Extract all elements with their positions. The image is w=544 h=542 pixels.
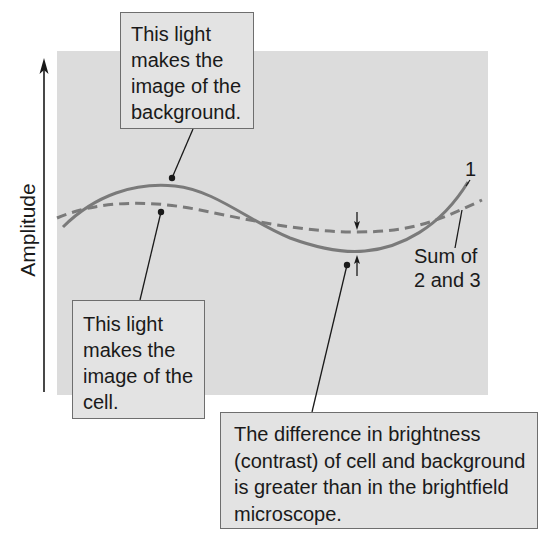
callout-line: cell.: [83, 389, 204, 415]
dot-background: [169, 175, 175, 181]
curve-1-label: 1: [465, 157, 476, 181]
sum-label-line: 2 and 3: [414, 268, 481, 292]
callout-line: image of the: [83, 363, 204, 389]
curve-1-solid: [63, 182, 468, 251]
y-axis-label: Amplitude: [17, 183, 38, 276]
dot-difference: [344, 262, 350, 268]
arrow-up-small-icon: [354, 255, 360, 276]
callout-line: This light: [131, 21, 253, 47]
callout-line: The difference in brightness: [234, 421, 537, 448]
callout-line: microscope.: [234, 501, 537, 528]
sum-curve-label: Sum of 2 and 3: [414, 244, 481, 292]
callout-line: makes the: [131, 47, 253, 73]
sum-label-line: Sum of: [414, 244, 481, 268]
callout-cell-light: This light makes the image of the cell.: [72, 300, 205, 419]
leader-label-sum: [455, 210, 462, 248]
arrow-down-icon: [354, 212, 360, 230]
callout-line: background.: [131, 99, 253, 125]
leader-background: [172, 129, 193, 178]
callout-line: is greater than in the brightfield: [234, 474, 537, 501]
callout-line: makes the: [83, 337, 204, 363]
dot-cell: [158, 209, 164, 215]
callout-line: This light: [83, 311, 204, 337]
callout-background-light: This light makes the image of the backgr…: [120, 12, 254, 129]
callout-line: (contrast) of cell and background: [234, 448, 537, 475]
leader-cell: [140, 212, 161, 300]
callout-contrast-difference: The difference in brightness (contrast) …: [220, 412, 538, 529]
callout-line: image of the: [131, 73, 253, 99]
leader-difference: [312, 265, 347, 412]
amplitude-axis: [40, 58, 49, 392]
